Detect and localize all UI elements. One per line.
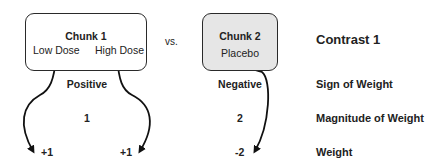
- chunk-1-condition-high-dose: High Dose: [95, 44, 144, 56]
- vs-label: vs.: [165, 36, 178, 47]
- chunk-2-sign: Negative: [218, 78, 262, 90]
- arrow-placebo: [240, 59, 268, 151]
- contrast-diagram: Chunk 1 Low Dose High Dose vs. Chunk 2 P…: [0, 0, 428, 166]
- row-label-sign: Sign of Weight: [316, 78, 393, 90]
- arrow-high-dose: [117, 58, 150, 151]
- chunk-2-magnitude: 2: [237, 112, 243, 124]
- contrast-title: Contrast 1: [316, 32, 380, 47]
- chunk-2-condition-placebo: Placebo: [221, 47, 259, 59]
- weight-low-dose: +1: [41, 146, 53, 158]
- chunk-1-box: [25, 13, 147, 71]
- chunk-2-box: [202, 13, 278, 71]
- chunk-1-condition-low-dose: Low Dose: [33, 44, 80, 56]
- chunk-1-sign: Positive: [67, 78, 107, 90]
- weight-high-dose: +1: [120, 146, 132, 158]
- weight-placebo: -2: [235, 146, 244, 158]
- chunk-1-title: Chunk 1: [65, 30, 106, 42]
- row-label-weight: Weight: [316, 146, 352, 158]
- chunk-1-magnitude: 1: [84, 112, 90, 124]
- arrow-low-dose: [24, 58, 56, 151]
- row-label-magnitude: Magnitude of Weight: [316, 112, 424, 124]
- chunk-2-title: Chunk 2: [219, 30, 260, 42]
